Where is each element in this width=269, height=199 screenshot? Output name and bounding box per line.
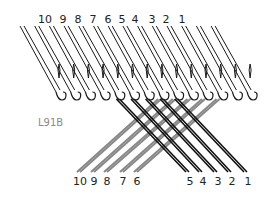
top-label-5: 5	[119, 14, 126, 25]
bottom-label-4: 4	[200, 176, 207, 187]
bottom-label-3: 3	[215, 176, 222, 187]
top-label-7: 7	[90, 14, 97, 25]
bottom-label-8: 8	[104, 176, 111, 187]
bottom-label-2: 2	[229, 176, 236, 187]
code-label: L91B	[38, 117, 63, 128]
bottom-label-1: 1	[245, 176, 252, 187]
bottom-label-5: 5	[187, 176, 194, 187]
bottom-label-9: 9	[91, 176, 98, 187]
top-label-10: 10	[38, 14, 52, 25]
top-label-3: 3	[149, 14, 156, 25]
needle-diagram	[0, 0, 269, 199]
top-label-4: 4	[132, 14, 139, 25]
top-label-1: 1	[179, 14, 186, 25]
top-label-8: 8	[75, 14, 82, 25]
bottom-label-10: 10	[73, 176, 87, 187]
bottom-label-6: 6	[134, 176, 141, 187]
top-label-6: 6	[105, 14, 112, 25]
top-label-9: 9	[60, 14, 67, 25]
top-label-2: 2	[163, 14, 170, 25]
bottom-label-7: 7	[120, 176, 127, 187]
